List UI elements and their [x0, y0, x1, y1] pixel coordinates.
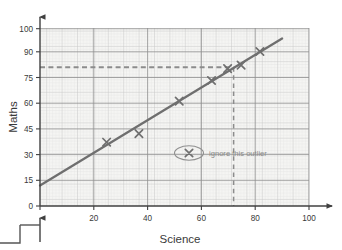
y-tick-label: 0: [28, 202, 33, 211]
y-axis-tick-labels: 0 15 30 45 60 75 90 100: [19, 25, 33, 211]
x-tick-label: 80: [251, 214, 261, 223]
x-axis-tick-labels: 20 40 60 80 100: [89, 214, 316, 223]
y-tick-label: 100: [19, 25, 33, 34]
x-tick-label: 100: [302, 214, 316, 223]
origin-pointer-callout: [0, 218, 40, 243]
y-tick-label: 15: [24, 176, 34, 185]
x-tick-label: 40: [143, 214, 153, 223]
outlier-annotation-label: ignore this outlier: [209, 149, 267, 158]
y-tick-label: 75: [24, 74, 34, 83]
chart-svg: ignore this outlier: [0, 0, 342, 250]
y-tick-label: 60: [24, 99, 34, 108]
x-axis-title: Science: [160, 233, 201, 245]
y-tick-label: 30: [24, 151, 34, 160]
x-tick-label: 20: [89, 214, 99, 223]
y-tick-label: 45: [24, 125, 34, 134]
y-tick-label: 90: [24, 48, 34, 57]
plot-area-background: [40, 28, 309, 206]
scatter-graph-figure: ignore this outlier: [0, 0, 342, 250]
x-tick-label: 60: [197, 214, 207, 223]
y-axis-title: Maths: [7, 101, 19, 133]
